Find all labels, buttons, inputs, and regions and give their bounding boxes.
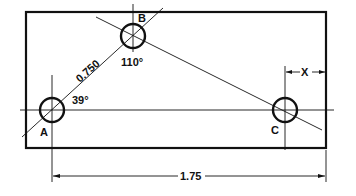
x-arrow-left	[286, 70, 292, 74]
dim-175-arrow-right	[318, 174, 325, 178]
dimension-ac-distance: 1.75	[180, 170, 201, 182]
angle-at-b: 110°	[121, 56, 143, 68]
plate-outline	[26, 12, 326, 148]
hole-plate-drawing: A B C 0.750 39° 110° X 1.75	[0, 0, 356, 196]
label-hole-b: B	[138, 12, 146, 24]
angle-at-a: 39°	[72, 94, 89, 106]
label-hole-a: A	[40, 126, 48, 138]
label-hole-c: C	[271, 124, 279, 136]
dimension-ab-distance: 0.750	[73, 57, 101, 84]
line-bc	[96, 17, 322, 130]
dimension-x: X	[301, 66, 309, 78]
x-arrow-right	[319, 70, 325, 74]
dim-175-arrow-left	[53, 174, 60, 178]
